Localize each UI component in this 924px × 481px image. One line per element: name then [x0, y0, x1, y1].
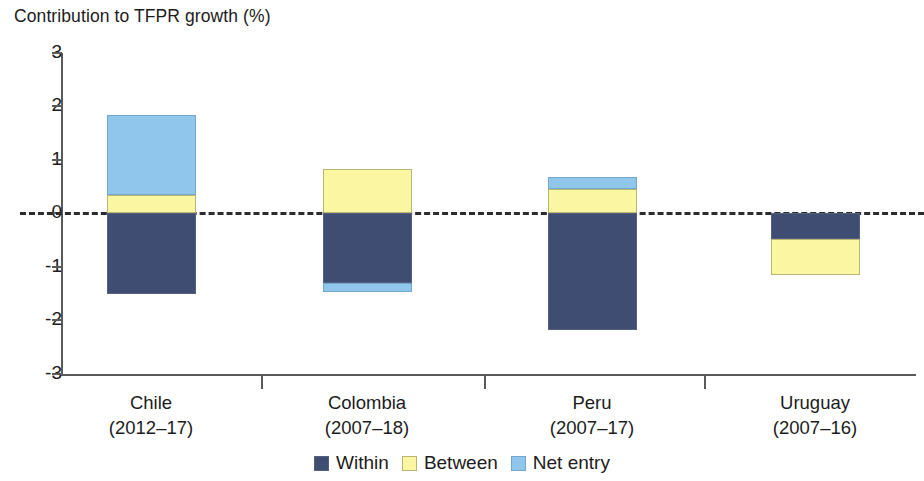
x-axis-category-label: Chile(2012–17) — [41, 390, 261, 440]
category-name: Peru — [572, 392, 611, 413]
category-name: Colombia — [328, 392, 406, 413]
bar-segment[interactable] — [323, 213, 412, 283]
legend-swatch-icon — [402, 456, 417, 471]
x-axis-category-label: Uruguay(2007–16) — [705, 390, 924, 440]
category-period: (2012–17) — [41, 415, 261, 440]
category-period: (2007–16) — [705, 415, 924, 440]
x-axis-tick-mark — [704, 376, 706, 389]
legend-swatch-icon — [314, 456, 329, 471]
x-axis-tick-mark — [484, 376, 486, 389]
category-name: Chile — [130, 392, 172, 413]
x-axis-category-label: Colombia(2007–18) — [257, 390, 477, 440]
category-name: Uruguay — [780, 392, 850, 413]
legend-label: Net entry — [533, 452, 610, 474]
bar-segment[interactable] — [323, 283, 412, 292]
x-axis-tick-mark — [261, 376, 263, 389]
bar-segment[interactable] — [548, 189, 637, 213]
bar-segment[interactable] — [548, 213, 637, 330]
bar-segment[interactable] — [771, 213, 860, 239]
bar-segment[interactable] — [548, 177, 637, 190]
bar-segment[interactable] — [771, 239, 860, 275]
legend-label: Between — [424, 452, 498, 474]
legend-swatch-icon — [511, 456, 526, 471]
y-axis-tick-mark — [52, 52, 62, 54]
bar-segment[interactable] — [107, 213, 196, 294]
legend-item[interactable]: Net entry — [511, 452, 610, 474]
y-axis-tick-mark — [52, 105, 62, 107]
bar-segment[interactable] — [323, 169, 412, 213]
y-axis-tick-mark — [52, 319, 62, 321]
chart-figure: Contribution to TFPR growth (%) 3210-1-2… — [0, 0, 924, 481]
bar-segment[interactable] — [107, 195, 196, 213]
plot-area: 3210-1-2-3 Chile(2012–17)Colombia(2007–1… — [0, 0, 924, 481]
y-axis-tick-mark — [52, 266, 62, 268]
x-axis-line — [61, 374, 916, 376]
legend-item[interactable]: Between — [402, 452, 498, 474]
chart-legend: WithinBetweenNet entry — [0, 452, 924, 474]
y-axis-tick-mark — [52, 159, 62, 161]
legend-label: Within — [336, 452, 389, 474]
x-axis-category-label: Peru(2007–17) — [482, 390, 702, 440]
bar-segment[interactable] — [107, 115, 196, 195]
legend-item[interactable]: Within — [314, 452, 389, 474]
category-period: (2007–17) — [482, 415, 702, 440]
category-period: (2007–18) — [257, 415, 477, 440]
